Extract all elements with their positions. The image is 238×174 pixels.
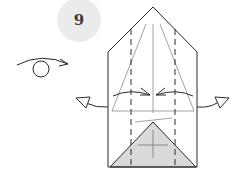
origami-diagram (0, 0, 238, 174)
hollow-arrow-right-icon (197, 97, 229, 108)
hollow-arrow-left-icon (76, 97, 108, 108)
turn-over-arrow-icon (17, 58, 68, 77)
inner-flap-lines (112, 24, 194, 122)
